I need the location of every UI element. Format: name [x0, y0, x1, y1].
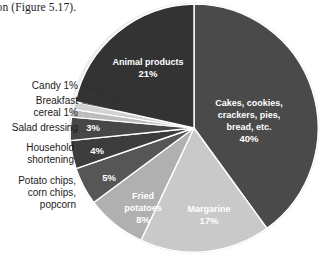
callout-household-line1: Household [26, 142, 74, 153]
callout-salad-dressing: Salad dressing [12, 122, 78, 133]
label-animal-name: Animal products [112, 57, 183, 67]
label-potato-chips-pct: 5% [102, 172, 116, 183]
label-cakes-line3: bread, etc. [226, 122, 271, 132]
callout-chips-line1: Potato chips, [18, 175, 76, 186]
label-cakes-line1: Cakes, cookies, [215, 98, 283, 108]
label-fried-line2: potatoes [124, 203, 162, 213]
pie-slices [70, 4, 318, 252]
label-animal-pct: 21% [138, 68, 158, 79]
label-cakes-line2: crackers, pies, [218, 110, 281, 120]
callout-labels: Candy 1% Breakfast cereal 1% Salad dress… [12, 80, 78, 210]
callout-breakfast-line1: Breakfast [36, 95, 78, 106]
callout-breakfast-line2: cereal 1% [34, 107, 79, 118]
callout-candy: Candy 1% [32, 80, 78, 91]
label-fried-pct: 8% [136, 214, 150, 225]
callout-chips-line3: popcorn [40, 199, 76, 210]
label-household-shortening-pct: 4% [90, 145, 104, 156]
callout-household-line2: shortening [27, 154, 74, 165]
callout-chips-line2: corn chips, [28, 187, 76, 198]
page-canvas: tion (Figure 5.17). [0, 0, 322, 264]
label-cakes-pct: 40% [239, 133, 259, 144]
label-margarine-name: Margarine [187, 204, 230, 214]
label-salad-dressing-pct: 3% [86, 122, 100, 133]
label-fried-line1: Fried [132, 191, 154, 201]
label-margarine-pct: 17% [199, 215, 219, 226]
pie-chart: Cakes, cookies, crackers, pies, bread, e… [0, 0, 322, 264]
